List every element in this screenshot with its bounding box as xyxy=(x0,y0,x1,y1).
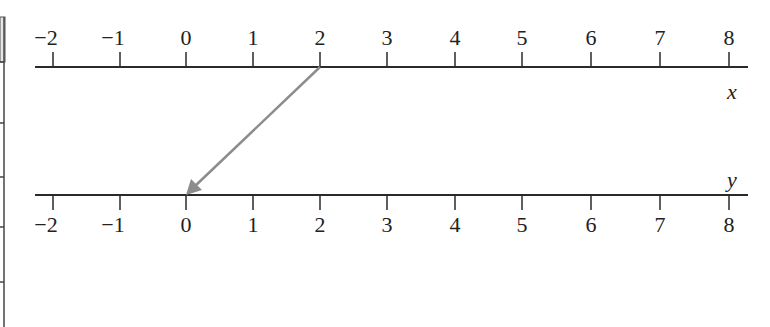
y-tick-label: 6 xyxy=(586,212,597,237)
x-tick-label: −1 xyxy=(101,25,124,50)
y-number-line: y −2 −1 0 1 2 3 4 5 6 7 8 xyxy=(34,167,748,237)
x-tick-label: 7 xyxy=(655,25,666,50)
left-edge-strip xyxy=(0,17,5,327)
x-tick-label: 2 xyxy=(315,25,326,50)
y-axis-variable-label: y xyxy=(725,167,737,192)
y-tick-label: 8 xyxy=(724,212,735,237)
y-tick-label: 0 xyxy=(181,212,192,237)
y-tick-label: −2 xyxy=(34,212,57,237)
y-tick-label: 7 xyxy=(655,212,666,237)
x-number-line: −2 −1 0 1 2 3 4 5 6 7 8 x xyxy=(34,25,748,104)
mapping-arrow xyxy=(186,67,320,195)
x-tick-label: −2 xyxy=(34,25,57,50)
y-tick-label: 4 xyxy=(450,212,461,237)
x-tick-label: 0 xyxy=(181,25,192,50)
arrow-shaft xyxy=(194,67,320,187)
mapping-diagram: −2 −1 0 1 2 3 4 5 6 7 8 x y xyxy=(0,0,770,327)
y-tick-label: −1 xyxy=(101,212,124,237)
x-axis-variable-label: x xyxy=(726,79,737,104)
x-tick-label: 3 xyxy=(382,25,393,50)
y-tick-label: 3 xyxy=(382,212,393,237)
x-tick-label: 4 xyxy=(450,25,461,50)
x-tick-label: 8 xyxy=(724,25,735,50)
y-tick-label: 1 xyxy=(248,212,259,237)
y-tick-label: 2 xyxy=(315,212,326,237)
x-tick-label: 1 xyxy=(248,25,259,50)
x-tick-label: 5 xyxy=(517,25,528,50)
x-tick-label: 6 xyxy=(586,25,597,50)
y-tick-label: 5 xyxy=(517,212,528,237)
